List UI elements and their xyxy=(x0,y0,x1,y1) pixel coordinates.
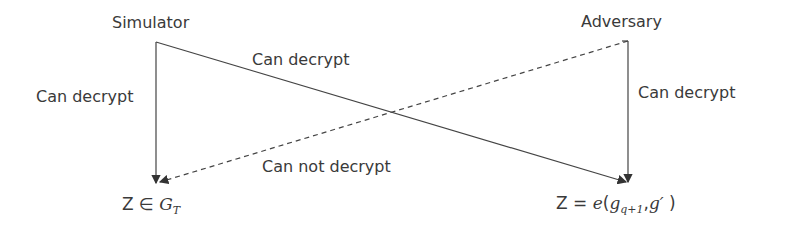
left-result-node: Z ∈ GT xyxy=(122,194,180,217)
edge-label-simulator-left: Can decrypt xyxy=(36,87,133,106)
edge-label-adversary-right: Can decrypt xyxy=(638,83,735,102)
edge-adversary-to-left xyxy=(160,41,628,182)
edge-label-simulator-right: Can decrypt xyxy=(252,50,349,69)
right-result-node: Z = e(gq+1,g′ ) xyxy=(556,193,676,216)
simulator-node: Simulator xyxy=(112,13,189,32)
edge-label-adversary-left: Can not decrypt xyxy=(262,157,391,176)
adversary-node: Adversary xyxy=(581,12,662,31)
